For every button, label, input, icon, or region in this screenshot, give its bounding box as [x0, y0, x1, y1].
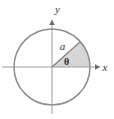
circle-angle-figure: a θ x y	[0, 0, 114, 119]
y-axis-arrowhead-icon	[49, 20, 55, 26]
x-axis-arrowhead-icon	[95, 64, 101, 70]
central-angle-label: θ	[64, 56, 69, 67]
figure-canvas: a θ x y	[0, 0, 114, 119]
radius-length-label: a	[60, 40, 66, 52]
y-axis-label: y	[54, 3, 60, 15]
x-axis-label: x	[102, 61, 108, 73]
angle-sector-shading	[52, 42, 90, 67]
